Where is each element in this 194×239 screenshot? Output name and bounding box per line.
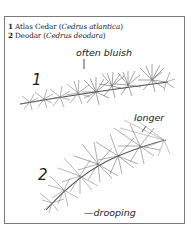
specimen-number-2: 2 xyxy=(38,166,48,184)
branch-2-deodar xyxy=(40,118,170,213)
cedar-branch-illustration xyxy=(0,0,194,239)
specimen-number-1: 1 xyxy=(32,71,42,89)
annotation-drooping: —drooping xyxy=(84,207,136,218)
branch-1-atlas-cedar xyxy=(20,64,175,110)
annotation-often-bluish: often bluish xyxy=(76,47,132,58)
annotation-longer: longer xyxy=(134,112,164,123)
